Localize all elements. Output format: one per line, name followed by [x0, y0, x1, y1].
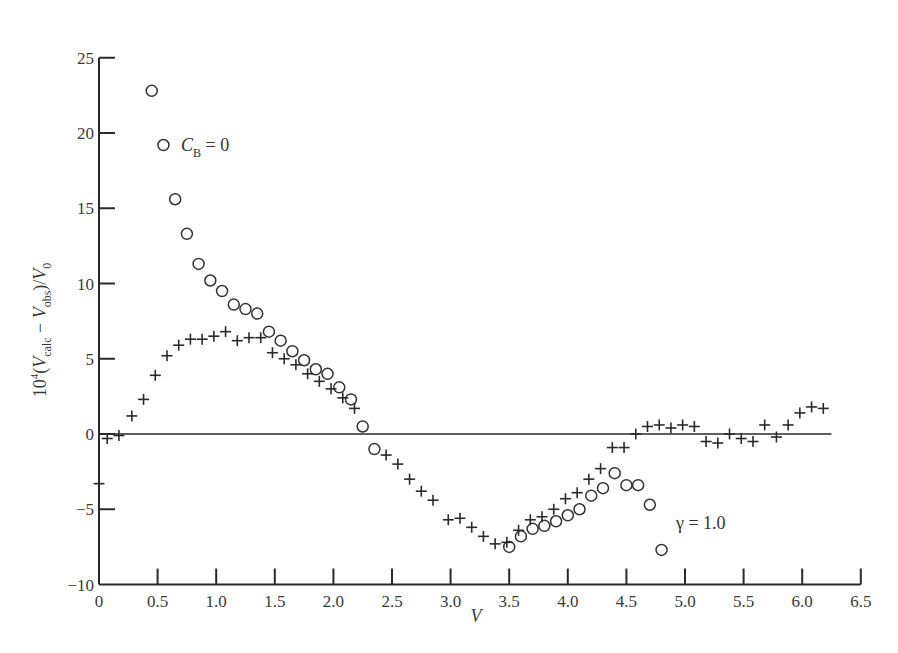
y-axis-label: 104(Vcalc − Vobs)/V0 — [28, 263, 54, 398]
x-tick-label: 6.5 — [850, 592, 871, 611]
data-point-circle — [656, 544, 667, 555]
data-point-plus — [454, 513, 465, 524]
data-point-plus — [583, 474, 594, 485]
data-point-plus — [595, 463, 606, 474]
x-tick-label: 2.0 — [323, 592, 344, 611]
y-tick-label: −5 — [76, 500, 94, 519]
data-point-plus — [701, 436, 712, 447]
x-tick-label: 5.5 — [733, 592, 754, 611]
data-point-plus — [689, 421, 700, 432]
y-tick-label: 25 — [77, 49, 94, 68]
data-point-plus — [290, 359, 301, 370]
data-point-plus — [138, 394, 149, 405]
data-point-plus — [712, 438, 723, 449]
x-tick-label: 4.5 — [616, 592, 637, 611]
data-point-circle — [205, 275, 216, 286]
annotation-gamma: γ = 1.0 — [675, 513, 726, 533]
scatter-chart: 00.51.01.52.02.53.03.54.04.55.05.56.06.5… — [0, 0, 898, 653]
data-point-plus — [232, 335, 243, 346]
svg-text:104(Vcalc − Vobs)/V0: 104(Vcalc − Vobs)/V0 — [28, 263, 54, 398]
x-tick-label: 6.0 — [792, 592, 813, 611]
data-point-plus — [428, 495, 439, 506]
data-point-plus — [794, 407, 805, 418]
y-tick-label: 0 — [86, 425, 95, 444]
y-tick-label: 10 — [77, 275, 94, 294]
data-point-plus — [244, 332, 255, 343]
data-point-plus — [161, 350, 172, 361]
data-point-plus — [572, 487, 583, 498]
data-point-circle — [562, 510, 573, 521]
x-tick-label: 4.0 — [557, 592, 578, 611]
data-point-plus — [818, 403, 829, 414]
data-point-plus — [513, 525, 524, 536]
data-point-circle — [369, 444, 380, 455]
data-point-circle — [633, 480, 644, 491]
data-point-plus — [747, 436, 758, 447]
y-tick-label: 15 — [77, 199, 94, 218]
data-point-plus — [416, 486, 427, 497]
data-point-plus — [630, 429, 641, 440]
x-tick-label: 0 — [95, 592, 104, 611]
series-cb-zero-markers — [146, 85, 667, 555]
data-point-circle — [240, 304, 251, 315]
data-point-plus — [490, 538, 501, 549]
data-point-circle — [644, 499, 655, 510]
data-point-plus — [806, 401, 817, 412]
data-point-circle — [515, 531, 526, 542]
x-tick-label: 0.5 — [147, 592, 168, 611]
data-point-plus — [665, 422, 676, 433]
data-point-circle — [334, 382, 345, 393]
data-point-circle — [357, 421, 368, 432]
data-point-circle — [275, 335, 286, 346]
data-point-plus — [478, 531, 489, 542]
data-point-plus — [113, 430, 124, 441]
data-point-circle — [586, 490, 597, 501]
data-point-circle — [263, 326, 274, 337]
data-point-circle — [228, 299, 239, 310]
data-point-plus — [759, 419, 770, 430]
data-point-plus — [381, 450, 392, 461]
data-point-circle — [527, 523, 538, 534]
data-point-plus — [607, 442, 618, 453]
data-point-plus — [619, 442, 630, 453]
data-point-plus — [677, 419, 688, 430]
data-point-plus — [185, 334, 196, 345]
data-point-circle — [252, 308, 263, 319]
data-point-circle — [181, 228, 192, 239]
data-point-plus — [560, 493, 571, 504]
data-point-circle — [539, 520, 550, 531]
data-point-plus — [267, 347, 278, 358]
data-point-circle — [170, 194, 181, 205]
data-point-plus — [548, 504, 559, 515]
data-point-plus — [443, 514, 454, 525]
data-point-circle — [322, 368, 333, 379]
data-point-plus — [771, 432, 782, 443]
axis-ticks: 00.51.01.52.02.53.03.54.04.55.05.56.06.5… — [67, 49, 871, 611]
data-point-circle — [551, 516, 562, 527]
data-point-plus — [208, 331, 219, 342]
y-tick-label: 20 — [77, 124, 94, 143]
data-point-plus — [404, 474, 415, 485]
x-tick-label: 2.5 — [381, 592, 402, 611]
data-point-plus — [654, 419, 665, 430]
data-point-plus — [173, 340, 184, 351]
data-point-circle — [597, 483, 608, 494]
data-point-circle — [287, 346, 298, 357]
data-point-plus — [94, 478, 105, 489]
data-point-plus — [197, 334, 208, 345]
x-tick-label: 5.0 — [674, 592, 695, 611]
data-point-circle — [217, 286, 228, 297]
data-point-circle — [574, 504, 585, 515]
data-point-plus — [126, 410, 137, 421]
data-point-plus — [466, 522, 477, 533]
data-point-plus — [783, 419, 794, 430]
annotation-cb-zero: CB = 0 — [181, 135, 229, 160]
x-tick-label: 3.5 — [499, 592, 520, 611]
data-point-circle — [158, 140, 169, 151]
x-tick-label: 1.0 — [206, 592, 227, 611]
x-tick-label: 3.0 — [440, 592, 461, 611]
data-point-circle — [621, 480, 632, 491]
x-tick-label: 1.5 — [264, 592, 285, 611]
y-tick-label: −10 — [67, 576, 94, 595]
x-axis-label: V — [471, 606, 484, 626]
